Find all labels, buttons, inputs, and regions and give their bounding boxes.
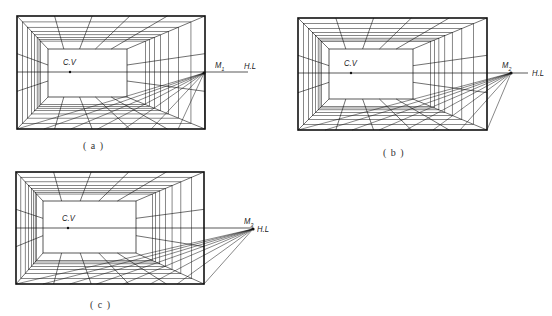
center-of-vision-dot (69, 71, 71, 73)
measuring-point-dot (202, 71, 205, 74)
perspective-figure (0, 0, 552, 316)
measuring-point-label: M3 (244, 216, 253, 228)
cv-label: C.V (344, 58, 357, 68)
measuring-point-label: M2 (502, 60, 511, 72)
panel-c (16, 172, 255, 284)
measuring-point-dot (251, 227, 254, 230)
measuring-point-label: M1 (215, 60, 224, 72)
panel-caption: ( c ) (90, 299, 111, 310)
panel-a (17, 16, 248, 129)
panel-b (298, 18, 528, 130)
hl-label: H.L (244, 61, 256, 71)
center-of-vision-dot (67, 227, 69, 229)
measuring-point-dot (509, 71, 512, 74)
m-label-subscript: 2 (508, 66, 511, 72)
m-label-subscript: 3 (250, 222, 253, 228)
hl-label: H.L (532, 68, 544, 78)
m-label-subscript: 1 (221, 66, 224, 72)
cv-label: C.V (63, 57, 76, 67)
hl-label: H.L (257, 224, 269, 234)
center-of-vision-dot (350, 72, 352, 74)
panel-caption: ( b ) (383, 147, 405, 158)
cv-label: C.V (62, 213, 75, 223)
panel-caption: ( a ) (83, 140, 104, 151)
